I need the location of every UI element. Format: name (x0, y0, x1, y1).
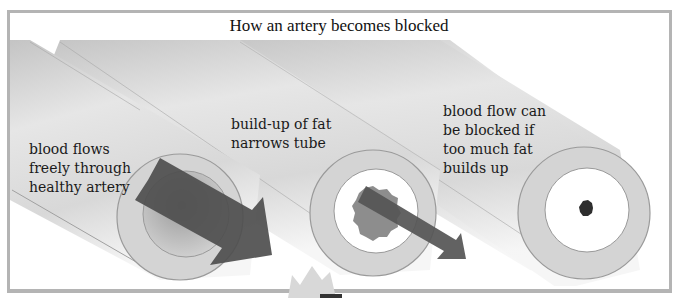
label-line: blood flow can (443, 102, 546, 121)
label-line: builds up (443, 159, 546, 178)
label-line: build-up of fat (231, 115, 331, 134)
label-line: blood flows (29, 140, 131, 159)
label-line: be blocked if (443, 121, 546, 140)
label-line: too much fat (443, 140, 546, 159)
label-line: narrows tube (231, 134, 331, 153)
label-healthy: blood flows freely through healthy arter… (29, 140, 131, 197)
label-blocked: blood flow can be blocked if too much fa… (443, 102, 546, 178)
label-narrowed: build-up of fat narrows tube (231, 115, 331, 153)
cross-section-narrowed (310, 150, 436, 276)
diagram-title: How an artery becomes blocked (0, 16, 678, 36)
label-line: freely through (29, 159, 131, 178)
label-line: healthy artery (29, 178, 131, 197)
